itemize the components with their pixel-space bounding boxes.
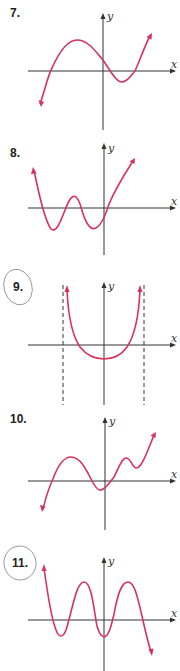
svg-text:x: x bbox=[171, 468, 178, 481]
svg-text:x: x bbox=[171, 332, 178, 345]
svg-text:y: y bbox=[107, 142, 115, 155]
problem-number: 11. bbox=[12, 556, 28, 570]
graph-9: y x bbox=[0, 255, 180, 405]
svg-text:y: y bbox=[107, 555, 115, 568]
svg-text:y: y bbox=[108, 415, 116, 428]
svg-text:x: x bbox=[171, 607, 178, 620]
problem-7: 7. y x bbox=[0, 0, 180, 130]
problem-10: 10. y x bbox=[0, 405, 180, 530]
svg-text:y: y bbox=[106, 10, 114, 23]
graph-10: y x bbox=[0, 405, 180, 530]
problem-number: 9. bbox=[13, 280, 23, 294]
svg-text:x: x bbox=[171, 58, 178, 71]
problem-8: 8. y x bbox=[0, 130, 180, 255]
problem-11: y x 11. bbox=[0, 530, 180, 671]
svg-text:y: y bbox=[107, 280, 115, 293]
graph-11: y x bbox=[0, 530, 180, 671]
problem-9: y x 9. bbox=[0, 255, 180, 405]
svg-text:x: x bbox=[171, 195, 178, 208]
graph-7: y x bbox=[0, 0, 180, 130]
graph-8: y x bbox=[0, 130, 180, 255]
